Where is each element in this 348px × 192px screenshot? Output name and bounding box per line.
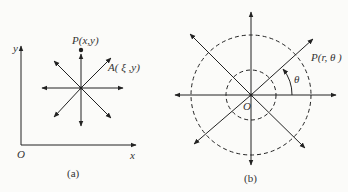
caption-a: (a) xyxy=(67,168,79,179)
theta-arc xyxy=(283,69,292,95)
diagram-canvas xyxy=(0,0,348,192)
x-axis-label: x xyxy=(130,150,135,161)
point-a-label: A( ξ ,y) xyxy=(108,62,140,73)
point-p-label-a: P(x,y) xyxy=(72,35,99,46)
caption-b: (b) xyxy=(244,173,257,184)
point-p-label-b: P(r, θ ) xyxy=(311,52,342,63)
y-axis-label: y xyxy=(13,43,18,54)
panel-b xyxy=(175,12,336,165)
origin-label-a: O xyxy=(17,149,25,160)
point-p-dot xyxy=(79,48,83,52)
origin-label-b: O xyxy=(243,101,251,112)
theta-label: θ xyxy=(294,74,299,85)
